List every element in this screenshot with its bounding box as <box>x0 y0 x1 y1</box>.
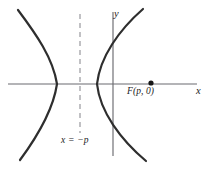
right-parabola-curve <box>97 9 146 161</box>
parabola-figure: y x x = −p F(p, 0) <box>0 0 208 170</box>
directrix-label: x = −p <box>61 136 89 146</box>
focus-label: F(p, 0) <box>127 87 154 97</box>
focus-point-dot <box>148 80 153 85</box>
left-parabola-curve <box>18 10 57 160</box>
figure-canvas <box>0 0 208 170</box>
x-axis-label: x <box>196 86 201 97</box>
y-axis-label: y <box>114 9 119 20</box>
